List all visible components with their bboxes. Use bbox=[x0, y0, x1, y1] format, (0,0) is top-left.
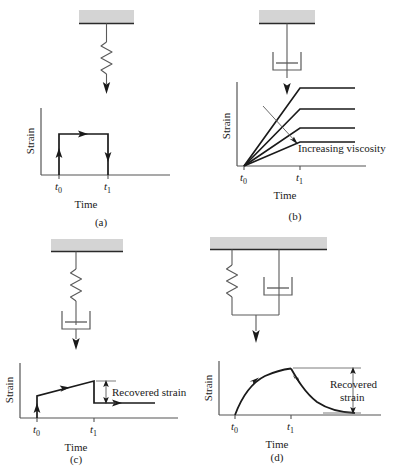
panel-caption-b: (b) bbox=[289, 210, 302, 223]
support-block bbox=[210, 237, 327, 249]
strain-time-chart-d: Recovered strain t0 t1 Time Strain bbox=[203, 361, 381, 450]
model-diagram-maxwell bbox=[51, 239, 123, 350]
panel-b-svg: Increasing viscosity t0 t1 Time Strain (… bbox=[203, 0, 405, 233]
x-tick-label-t0: t0 bbox=[240, 171, 247, 186]
x-tick-label-t1: t1 bbox=[90, 423, 97, 438]
x-axis-label: Time bbox=[274, 189, 297, 201]
x-tick-label-t1: t1 bbox=[296, 171, 303, 186]
panel-a: t0 t1 Time Strain (a) bbox=[0, 0, 202, 233]
dashpot-cylinder-icon bbox=[264, 277, 292, 295]
x-tick-label-t0: t0 bbox=[231, 420, 238, 435]
load-arrow-icon bbox=[72, 338, 79, 350]
series-low-viscosity bbox=[244, 109, 355, 166]
y-axis-label: Strain bbox=[220, 112, 232, 139]
panel-c: Recovered strain t0 t1 Time Strain (c) bbox=[0, 233, 202, 466]
model-diagram-spring bbox=[79, 10, 134, 94]
spring-icon bbox=[101, 42, 112, 74]
panel-a-svg: t0 t1 Time Strain (a) bbox=[0, 0, 202, 233]
increasing-viscosity-arrowhead bbox=[290, 137, 299, 145]
annotation-recovered-strain-line1: Recovered bbox=[330, 378, 378, 390]
strain-time-chart-b: Increasing viscosity t0 t1 Time Strain bbox=[220, 82, 386, 201]
x-axis-label: Time bbox=[266, 438, 289, 450]
panel-d-svg: Recovered strain t0 t1 Time Strain (d) bbox=[203, 233, 405, 466]
series-elastic-strain bbox=[59, 134, 108, 175]
increasing-viscosity-arrow-line bbox=[263, 106, 295, 141]
panel-caption-c: (c) bbox=[70, 453, 83, 466]
model-diagram-dashpot bbox=[259, 10, 315, 95]
x-tick-label-t0: t0 bbox=[33, 423, 40, 438]
load-arrow-icon bbox=[252, 330, 259, 343]
panel-d: Recovered strain t0 t1 Time Strain (d) bbox=[203, 233, 405, 466]
strain-time-chart-a: t0 t1 Time Strain bbox=[24, 108, 170, 210]
strain-time-chart-c: Recovered strain t0 t1 Time Strain bbox=[3, 363, 187, 453]
series-anelastic-creep bbox=[235, 369, 291, 416]
y-axis-label: Strain bbox=[3, 376, 15, 403]
panel-b: Increasing viscosity t0 t1 Time Strain (… bbox=[203, 0, 405, 233]
x-axis-label: Time bbox=[75, 198, 98, 210]
arrow-marker-creep-right bbox=[60, 386, 70, 392]
support-block bbox=[51, 239, 123, 251]
spring-icon bbox=[71, 269, 82, 301]
x-tick-label-t1: t1 bbox=[104, 180, 111, 195]
support-block bbox=[79, 10, 134, 23]
panel-c-svg: Recovered strain t0 t1 Time Strain (c) bbox=[0, 233, 202, 466]
y-axis-label: Strain bbox=[203, 374, 214, 401]
panel-caption-d: (d) bbox=[271, 451, 284, 464]
spring-icon bbox=[227, 265, 238, 297]
support-block bbox=[259, 10, 315, 23]
viscoelastic-models-figure: t0 t1 Time Strain (a) bbox=[0, 0, 405, 466]
annotation-recovered-strain: Recovered strain bbox=[112, 386, 187, 398]
x-tick-label-t1: t1 bbox=[287, 420, 294, 435]
annotation-increasing-viscosity: Increasing viscosity bbox=[298, 142, 386, 154]
model-diagram-kelvin-voigt bbox=[210, 237, 327, 343]
panel-caption-a: (a) bbox=[95, 216, 108, 229]
load-arrow-icon bbox=[283, 83, 290, 95]
x-tick-label-t0: t0 bbox=[55, 180, 62, 195]
annotation-recovered-strain-line2: strain bbox=[340, 391, 365, 403]
x-axis-label: Time bbox=[65, 441, 88, 453]
y-axis-label: Strain bbox=[24, 127, 36, 154]
